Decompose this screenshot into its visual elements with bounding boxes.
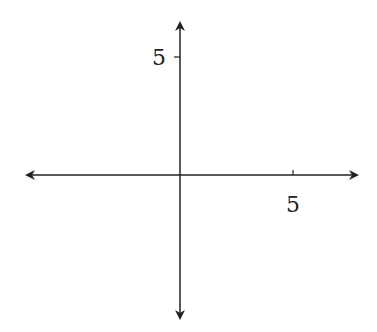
y-axis [174, 21, 185, 320]
y-tick-label: 5 [152, 45, 166, 70]
x-tick-label: 5 [286, 192, 300, 217]
coordinate-plane: 5 5 [0, 0, 377, 332]
x-axis [25, 170, 359, 180]
